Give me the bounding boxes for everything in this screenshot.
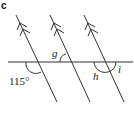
parallel-line-1 [16,15,57,102]
angle-arc-g [60,54,66,62]
parallel-line-3 [84,15,124,102]
angle-label-g: g [52,47,58,59]
geometry-diagram: 115° g h i [0,0,134,115]
angle-label-115: 115° [9,75,30,87]
angle-label-i: i [118,63,121,75]
double-arrow-icon [17,23,27,30]
angle-label-h: h [93,70,99,82]
